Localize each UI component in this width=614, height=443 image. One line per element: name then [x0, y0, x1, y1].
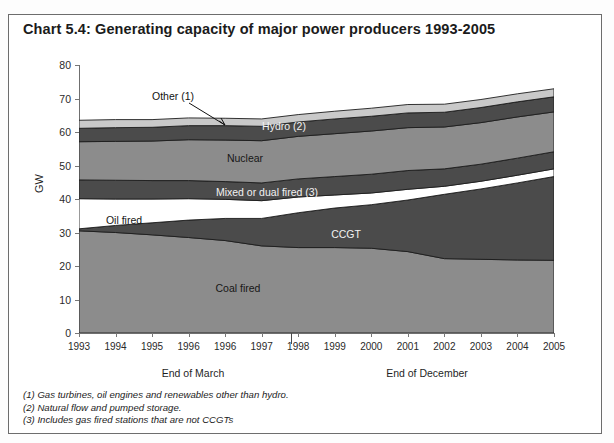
chart-page: Chart 5.4: Generating capacity of major … [0, 0, 614, 443]
x-tick-3-1996: 1996 [177, 341, 199, 352]
chart-frame: Chart 5.4: Generating capacity of major … [8, 14, 602, 434]
x-tick-0-1993: 1993 [68, 341, 90, 352]
x-tickmark-4 [225, 333, 226, 337]
period-divider [291, 333, 292, 344]
y-tick-40: 40 [45, 193, 71, 205]
band-label-mixed: Mixed or dual fired (3) [216, 186, 318, 198]
x-tickmark-12 [517, 333, 518, 337]
x-tick-7-1999: 1999 [324, 341, 346, 352]
x-tickmark-2 [152, 333, 153, 337]
x-tickmark-11 [481, 333, 482, 337]
period-label-december: End of December [386, 367, 468, 379]
y-tick-80: 80 [45, 59, 71, 71]
x-axis-line [79, 333, 555, 334]
band-label-oil: Oil fired [106, 214, 142, 226]
x-tick-11-2003: 2003 [470, 341, 492, 352]
x-tickmark-1 [116, 333, 117, 337]
band-label-hydro: Hydro (2) [262, 120, 306, 132]
x-tickmark-9 [408, 333, 409, 337]
footnote-1: (1) Gas turbines, oil engines and renewa… [23, 389, 289, 402]
x-tick-8-2000: 2000 [360, 341, 382, 352]
x-tick-9-2001: 2001 [397, 341, 419, 352]
x-tick-12-2004: 2004 [506, 341, 528, 352]
y-tick-60: 60 [45, 126, 71, 138]
x-tickmark-6 [298, 333, 299, 337]
y-tick-30: 30 [45, 227, 71, 239]
x-tick-2-1995: 1995 [141, 341, 163, 352]
footnote-3: (3) Includes gas fired stations that are… [23, 414, 289, 427]
y-tick-10: 10 [45, 294, 71, 306]
footnote-2: (2) Natural flow and pumped storage. [23, 402, 289, 415]
x-tick-1-1994: 1994 [104, 341, 126, 352]
x-tick-5-1997: 1997 [251, 341, 273, 352]
x-tickmark-10 [444, 333, 445, 337]
y-tick-70: 70 [45, 93, 71, 105]
other-leader-line [185, 101, 245, 131]
chart-canvas: GW 01020304050607080 1993199419951996199… [9, 15, 603, 435]
y-axis-label: GW [33, 174, 45, 193]
band-label-ccgt: CCGT [331, 228, 361, 240]
x-tick-13-2005: 2005 [543, 341, 565, 352]
x-tickmark-13 [554, 333, 555, 337]
y-tick-0: 0 [45, 327, 71, 339]
stacked-area-plot [79, 65, 554, 333]
period-label-march: End of March [162, 367, 224, 379]
y-tick-20: 20 [45, 260, 71, 272]
x-tickmark-3 [189, 333, 190, 337]
x-tickmark-5 [262, 333, 263, 337]
area-series-svg [79, 65, 554, 333]
band-label-nuclear: Nuclear [227, 152, 263, 164]
x-tick-10-2002: 2002 [433, 341, 455, 352]
y-tick-50: 50 [45, 160, 71, 172]
x-tickmark-8 [371, 333, 372, 337]
band-label-coal: Coal fired [216, 282, 261, 294]
footnotes: (1) Gas turbines, oil engines and renewa… [23, 389, 289, 427]
x-tickmark-7 [335, 333, 336, 337]
x-tick-4-1996: 1996 [214, 341, 236, 352]
x-tickmark-0 [79, 333, 80, 337]
